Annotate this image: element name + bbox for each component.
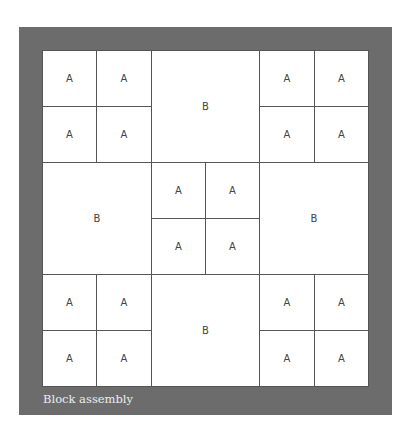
block-a: A xyxy=(42,106,97,163)
block-a: A xyxy=(205,218,260,275)
block-a: A xyxy=(259,106,315,163)
block-a: A xyxy=(151,162,206,219)
block-a: A xyxy=(259,274,315,331)
block-a: A xyxy=(259,330,315,387)
block-a: A xyxy=(42,50,97,107)
block-a: A xyxy=(42,274,97,331)
block-a: A xyxy=(314,330,369,387)
block-a: A xyxy=(205,162,260,219)
block-b: B xyxy=(151,50,260,163)
diagram-caption: Block assembly xyxy=(43,392,133,406)
block-a: A xyxy=(96,106,152,163)
block-a: A xyxy=(314,106,369,163)
block-grid: AAAABAAAABAAAABAAAABAAAA xyxy=(42,50,368,386)
block-b: B xyxy=(259,162,369,275)
block-a: A xyxy=(42,330,97,387)
block-a: A xyxy=(151,218,206,275)
block-a: A xyxy=(96,330,152,387)
block-a: A xyxy=(96,50,152,107)
block-b: B xyxy=(42,162,152,275)
block-b: B xyxy=(151,274,260,387)
block-a: A xyxy=(314,50,369,107)
block-a: A xyxy=(259,50,315,107)
block-a: A xyxy=(96,274,152,331)
block-a: A xyxy=(314,274,369,331)
